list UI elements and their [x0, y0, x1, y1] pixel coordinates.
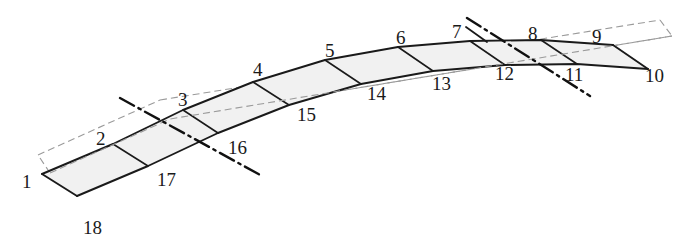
node-label-1: 1 — [22, 172, 32, 191]
node-label-8: 8 — [528, 24, 538, 43]
reference-plane-edge-left-cap — [38, 155, 50, 173]
node-label-3: 3 — [178, 90, 188, 109]
node-label-7: 7 — [452, 22, 462, 41]
node-label-16: 16 — [228, 138, 247, 157]
node-label-17: 17 — [157, 170, 176, 189]
node-label-18: 18 — [83, 218, 102, 237]
node-label-12: 12 — [495, 64, 514, 83]
node-label-11: 11 — [565, 65, 583, 84]
reference-plane-edge-right-cap — [660, 20, 672, 36]
node-label-13: 13 — [432, 74, 451, 93]
node-label-14: 14 — [367, 84, 386, 103]
node-label-6: 6 — [396, 28, 406, 47]
node-label-15: 15 — [297, 105, 316, 124]
node-label-2: 2 — [96, 129, 106, 148]
shell-mesh-diagram: 1 2 3 4 5 6 7 8 9 10 11 12 13 14 15 16 1… — [0, 0, 693, 251]
node-label-9: 9 — [592, 27, 602, 46]
node-label-5: 5 — [325, 41, 335, 60]
node-label-4: 4 — [253, 60, 263, 79]
diagram-canvas — [0, 0, 693, 251]
node-label-10: 10 — [645, 66, 664, 85]
